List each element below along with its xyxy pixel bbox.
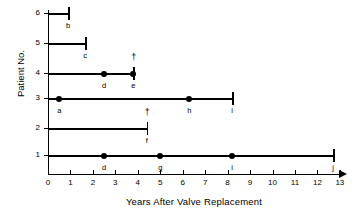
x-axis-line — [48, 174, 340, 175]
event-label: c — [79, 51, 91, 60]
event-dot-marker — [157, 153, 163, 159]
death-dagger-marker: † — [141, 108, 153, 117]
x-axis-tick — [340, 170, 341, 174]
patient-timeline-line — [48, 13, 68, 15]
event-label: a — [53, 106, 65, 115]
x-axis-tick-label: 5 — [152, 178, 168, 187]
x-axis-tick — [250, 170, 251, 174]
y-axis-tick — [44, 128, 48, 129]
x-axis-tick — [295, 170, 296, 174]
y-axis-tick-label: 4 — [26, 68, 40, 77]
event-dot-marker — [56, 96, 62, 102]
x-axis-tick — [93, 170, 94, 174]
y-axis-line — [48, 10, 49, 175]
event-label: j — [327, 163, 339, 172]
x-axis-tick-label: 1 — [62, 178, 78, 187]
patient-timeline-line — [48, 155, 333, 157]
y-axis-tick-label: 3 — [26, 93, 40, 102]
x-axis-tick-label: 7 — [197, 178, 213, 187]
x-axis-tick — [317, 170, 318, 174]
x-axis-tick — [115, 170, 116, 174]
y-axis-tick-label: 5 — [26, 38, 40, 47]
x-axis-tick-label: 8 — [220, 178, 236, 187]
y-axis-tick-label: 6 — [26, 8, 40, 17]
event-dot-marker — [186, 96, 192, 102]
x-axis-tick — [138, 170, 139, 174]
x-axis-tick-label: 0 — [40, 178, 56, 187]
patient-timeline-line — [48, 98, 232, 100]
timeline-end-cap — [232, 92, 234, 105]
event-label: e — [127, 81, 139, 90]
x-axis-tick-label: 9 — [242, 178, 258, 187]
y-axis-title: Patient No. — [15, 26, 26, 122]
timeline-end-cap — [147, 122, 149, 135]
event-label: b — [62, 21, 74, 30]
timeline-end-cap — [68, 7, 70, 20]
event-label: h — [183, 106, 195, 115]
timeline-end-cap — [85, 37, 87, 50]
y-axis-tick-label: 1 — [26, 150, 40, 159]
survival-timeline-chart: jdgi†fiah†edcb 012345678910111213 123456… — [0, 0, 362, 217]
x-axis-tick — [160, 170, 161, 174]
x-axis-tick-label: 11 — [287, 178, 303, 187]
x-axis-tick — [205, 170, 206, 174]
death-dagger-marker: † — [128, 53, 140, 62]
patient-timeline-line — [48, 128, 147, 130]
y-axis-tick — [44, 155, 48, 156]
y-axis-tick-label: 2 — [26, 123, 40, 132]
y-axis-tick — [44, 43, 48, 44]
event-label: f — [141, 136, 153, 145]
event-dot-marker — [101, 71, 107, 77]
x-axis-tick-label: 13 — [332, 178, 348, 187]
event-label: i — [226, 106, 238, 115]
event-label: d — [98, 163, 110, 172]
x-axis-tick-label: 4 — [130, 178, 146, 187]
patient-timeline-line — [48, 43, 85, 45]
event-dot-marker — [229, 153, 235, 159]
x-axis-tick — [183, 170, 184, 174]
y-axis-tick — [44, 98, 48, 99]
x-axis-tick-label: 10 — [265, 178, 281, 187]
y-axis-tick — [44, 13, 48, 14]
x-axis-tick-label: 12 — [309, 178, 325, 187]
x-axis-tick — [228, 170, 229, 174]
patient-timeline-line — [48, 73, 133, 75]
x-axis-tick — [70, 170, 71, 174]
x-axis-tick-label: 2 — [85, 178, 101, 187]
x-axis-tick-label: 3 — [107, 178, 123, 187]
event-dot-marker — [101, 153, 107, 159]
x-axis-tick — [48, 170, 49, 174]
x-axis-tick — [273, 170, 274, 174]
timeline-end-cap — [333, 149, 335, 162]
x-axis-tick-label: 6 — [175, 178, 191, 187]
event-dot-marker — [130, 71, 136, 77]
event-label: d — [98, 81, 110, 90]
x-axis-title: Years After Valve Replacement — [48, 196, 340, 207]
y-axis-tick — [44, 73, 48, 74]
